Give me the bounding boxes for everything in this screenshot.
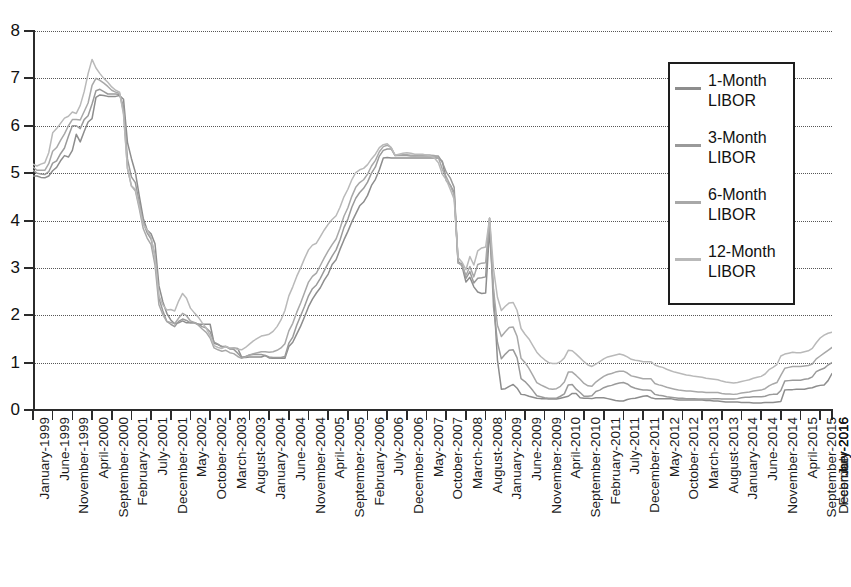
y-axis-tick-label: 4 <box>0 212 20 229</box>
x-axis-tick-label: September-2005 <box>353 417 367 518</box>
x-axis-tick-label: December-2011 <box>648 417 662 513</box>
y-axis-tick-label: 2 <box>0 306 20 323</box>
x-tick <box>721 411 723 420</box>
x-axis-tick-label: January-2014 <box>746 417 760 500</box>
x-axis-tick-label: December-2001 <box>176 417 190 514</box>
y-axis-tick-label: 7 <box>0 69 20 86</box>
x-axis-tick-label: November-2009 <box>550 417 564 514</box>
x-axis-tick-label: August-2008 <box>491 417 505 494</box>
x-axis-tick-label: January-2004 <box>274 417 288 500</box>
x-axis-tick-label: September-2000 <box>117 417 131 518</box>
x-tick <box>406 411 408 420</box>
legend-color-swatch <box>675 201 701 204</box>
x-axis-tick-label: October-2012 <box>687 417 701 500</box>
legend-item-label: 3-MonthLIBOR <box>708 128 767 168</box>
legend-item-label: 1-MonthLIBOR <box>708 71 767 111</box>
x-axis-tick-label: October-2002 <box>215 417 229 500</box>
x-axis-tick-label: April-2005 <box>333 417 347 479</box>
legend-item[interactable]: 3-MonthLIBOR <box>670 128 793 185</box>
y-axis-tick-label: 6 <box>0 117 20 134</box>
x-tick <box>780 411 782 420</box>
x-axis-tick-label: July-2011 <box>628 417 642 475</box>
x-axis-tick-label: September-2010 <box>589 417 603 518</box>
x-axis-tick-label: December-2016 <box>837 417 851 514</box>
x-axis-tick-label: March-2003 <box>235 417 249 489</box>
y-axis-tick-label: 0 <box>0 401 20 418</box>
x-axis-tick-label: February-2006 <box>373 417 387 506</box>
x-axis-tick-label: January-2009 <box>510 417 524 500</box>
legend-color-swatch <box>675 258 701 261</box>
x-tick <box>465 411 467 420</box>
legend-item-label: 6-MonthLIBOR <box>708 185 767 225</box>
legend-color-swatch <box>675 144 701 147</box>
x-axis-tick-label: June-2014 <box>766 417 780 481</box>
x-axis-tick-label: April-2010 <box>569 417 583 479</box>
x-axis-tick-label: May-2007 <box>432 417 446 477</box>
x-tick <box>268 411 270 420</box>
x-axis-tick-label: July-2001 <box>156 417 170 476</box>
x-axis-tick-label: January-1999 <box>38 417 52 500</box>
x-axis-tick-label: February-2001 <box>136 417 150 506</box>
x-axis-tick-label: November-2004 <box>314 417 328 514</box>
x-tick <box>426 411 428 420</box>
legend-item[interactable]: 6-MonthLIBOR <box>670 185 793 242</box>
legend-item[interactable]: 12-MonthLIBOR <box>670 242 793 299</box>
x-axis-tick-label: April-2015 <box>806 417 820 479</box>
x-tick <box>32 411 34 420</box>
x-axis-tick-label: October-2007 <box>451 417 465 500</box>
x-tick <box>760 411 762 420</box>
x-axis-tick-label: May-2012 <box>668 417 682 477</box>
x-axis-tick-label: February-2011 <box>609 417 623 505</box>
x-tick <box>170 411 172 420</box>
x-axis-tick-label: April-2000 <box>97 417 111 479</box>
x-axis-tick-label: July-2006 <box>392 417 406 476</box>
x-axis-tick-label: August-2013 <box>727 417 741 494</box>
x-tick <box>544 411 546 420</box>
x-axis-tick-label: March-2013 <box>707 417 721 489</box>
x-axis-tick-label: December-2006 <box>412 417 426 514</box>
legend-item[interactable]: 1-MonthLIBOR <box>670 71 793 128</box>
x-axis-tick-label: May-2002 <box>195 417 209 477</box>
x-tick <box>52 411 54 420</box>
x-tick <box>662 411 664 420</box>
x-tick <box>603 411 605 420</box>
x-axis-tick-label: November-1999 <box>77 417 91 514</box>
x-tick <box>485 411 487 420</box>
chart-legend: 1-MonthLIBOR3-MonthLIBOR6-MonthLIBOR12-M… <box>668 62 795 305</box>
x-tick <box>288 411 290 420</box>
x-axis-tick-label: November-2014 <box>786 417 800 514</box>
x-tick <box>583 411 585 420</box>
legend-color-swatch <box>675 87 701 90</box>
y-axis-tick-label: 5 <box>0 164 20 181</box>
x-tick <box>347 411 349 420</box>
x-tick <box>229 411 231 420</box>
x-axis-tick-label: June-2009 <box>530 417 544 481</box>
x-tick <box>150 411 152 420</box>
x-tick <box>524 411 526 420</box>
x-tick <box>701 411 703 420</box>
y-axis-tick-label: 3 <box>0 259 20 276</box>
x-axis-tick-label: June-1999 <box>58 417 72 481</box>
x-axis-tick-label: March-2008 <box>471 417 485 489</box>
x-tick <box>209 411 211 420</box>
x-tick <box>91 411 93 420</box>
legend-item-label: 12-MonthLIBOR <box>708 242 776 282</box>
y-axis-tick-label: 1 <box>0 354 20 371</box>
x-tick <box>642 411 644 420</box>
y-axis-tick-label: 8 <box>0 22 20 39</box>
x-axis-tick-label: August-2003 <box>254 417 268 494</box>
x-tick <box>111 411 113 420</box>
x-axis-tick-label: June-2004 <box>294 417 308 481</box>
